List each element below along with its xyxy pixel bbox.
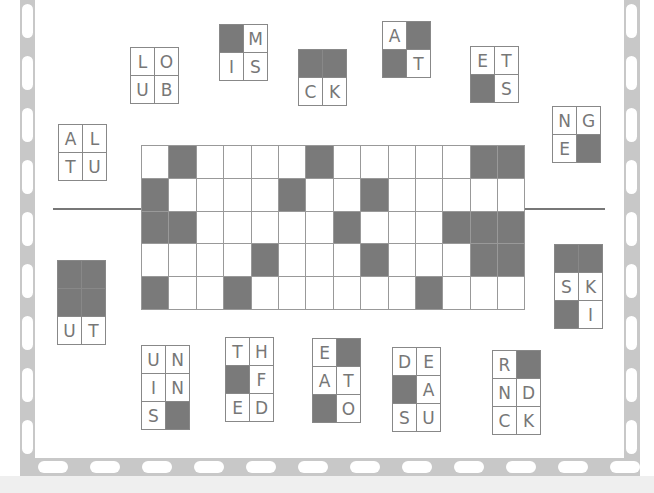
grid-cell[interactable] [361, 212, 388, 245]
grid-cell[interactable] [389, 146, 416, 179]
tile-at[interactable]: AT [382, 21, 431, 78]
tile-ck[interactable]: CK [298, 49, 347, 106]
tile-cell-black [82, 289, 106, 317]
grid-cell[interactable] [142, 146, 169, 179]
film-hole [626, 264, 637, 298]
grid-cell-black [443, 212, 470, 245]
grid-cell[interactable] [169, 277, 196, 310]
tile-altu[interactable]: ALTU [58, 124, 107, 181]
grid-cell[interactable] [498, 179, 525, 212]
tile-loub[interactable]: LOUB [130, 47, 179, 104]
grid-cell[interactable] [361, 277, 388, 310]
grid-cell[interactable] [279, 244, 306, 277]
grid-cell[interactable] [169, 179, 196, 212]
film-hole [626, 56, 637, 90]
grid-cell[interactable] [224, 146, 251, 179]
tile-thfed[interactable]: THFED [225, 337, 274, 422]
grid-cell[interactable] [306, 244, 333, 277]
grid-cell[interactable] [389, 179, 416, 212]
grid-cell[interactable] [471, 179, 498, 212]
tile-unins[interactable]: UNINS [141, 345, 190, 430]
grid-cell[interactable] [252, 212, 279, 245]
grid-cell[interactable] [279, 212, 306, 245]
grid-cell[interactable] [361, 146, 388, 179]
grid-cell[interactable] [443, 244, 470, 277]
tile-letter: N [553, 107, 577, 135]
grid-cell[interactable] [334, 277, 361, 310]
tile-ski[interactable]: SKI [554, 244, 603, 329]
grid-cell[interactable] [334, 179, 361, 212]
tile-cell-black [407, 22, 431, 50]
grid-cell[interactable] [197, 212, 224, 245]
grid-cell[interactable] [197, 244, 224, 277]
grid-cell-black [142, 277, 169, 310]
tile-letter: H [250, 338, 274, 366]
film-hole [626, 108, 637, 142]
tile-letter: T [407, 50, 431, 78]
grid-cell[interactable] [389, 244, 416, 277]
tile-letter: B [155, 76, 179, 104]
film-hole [506, 461, 536, 473]
grid-cell[interactable] [443, 146, 470, 179]
film-hole [626, 160, 637, 194]
tile-letter: C [493, 407, 517, 435]
tile-cell-black [299, 50, 323, 78]
film-hole [22, 368, 33, 402]
grid-cell[interactable] [416, 244, 443, 277]
grid-cell-black [498, 244, 525, 277]
grid-cell[interactable] [498, 277, 525, 310]
film-border-right [624, 0, 640, 476]
grid-cell[interactable] [252, 146, 279, 179]
grid-cell[interactable] [279, 146, 306, 179]
tile-letter: I [142, 374, 166, 402]
tile-letter: N [166, 346, 190, 374]
grid-cell[interactable] [197, 146, 224, 179]
grid-cell[interactable] [416, 179, 443, 212]
grid-cell[interactable] [389, 277, 416, 310]
tile-cell-black [393, 376, 417, 404]
grid-cell[interactable] [416, 146, 443, 179]
grid-cell[interactable] [306, 277, 333, 310]
grid-cell[interactable] [416, 212, 443, 245]
tile-cell-black [323, 50, 347, 78]
tile-letter: E [553, 135, 577, 163]
grid-cell[interactable] [334, 244, 361, 277]
grid-cell[interactable] [142, 244, 169, 277]
tile-cell-black [555, 245, 579, 273]
tile-nge[interactable]: NGE [552, 106, 601, 163]
tile-ets[interactable]: ETS [470, 46, 519, 103]
grid-cell[interactable] [471, 277, 498, 310]
grid-cell[interactable] [169, 244, 196, 277]
grid-cell-black [471, 146, 498, 179]
grid-cell[interactable] [252, 179, 279, 212]
grid-cell[interactable] [197, 179, 224, 212]
tile-deasu[interactable]: DEASU [392, 347, 441, 432]
grid-cell[interactable] [224, 244, 251, 277]
grid-cell-black [361, 179, 388, 212]
tile-rndck[interactable]: RNDCK [492, 350, 541, 435]
grid-cell[interactable] [197, 277, 224, 310]
grid-cell[interactable] [443, 179, 470, 212]
tile-mis[interactable]: MIS [219, 24, 268, 81]
page-margin [0, 476, 654, 493]
tile-letter: S [555, 273, 579, 301]
film-hole [22, 108, 33, 142]
grid-cell[interactable] [224, 179, 251, 212]
film-hole [22, 212, 33, 246]
grid-cell[interactable] [224, 212, 251, 245]
tile-letter: U [131, 76, 155, 104]
grid-cell[interactable] [279, 277, 306, 310]
grid-cell[interactable] [252, 277, 279, 310]
film-hole [350, 461, 380, 473]
grid-cell[interactable] [389, 212, 416, 245]
tile-letter: E [313, 339, 337, 367]
grid-cell-black [416, 277, 443, 310]
film-hole [626, 212, 637, 246]
tile-eato[interactable]: EATO [312, 338, 361, 423]
tile-ut[interactable]: UT [57, 260, 106, 345]
grid-cell-black [361, 244, 388, 277]
grid-cell[interactable] [306, 179, 333, 212]
grid-cell[interactable] [306, 212, 333, 245]
grid-cell[interactable] [443, 277, 470, 310]
grid-cell[interactable] [334, 146, 361, 179]
